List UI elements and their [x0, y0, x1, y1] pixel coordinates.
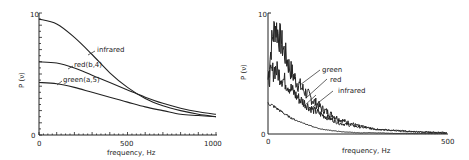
left-x-label-500: 500 [120, 140, 133, 148]
green-noisy-curve [268, 21, 447, 133]
left-chart: 10 0 0 500 1000 frequency, Hz P (ν) infr… [18, 11, 222, 157]
red-label: red(b,4) [74, 61, 102, 69]
right-x-label-0: 0 [266, 138, 270, 146]
infrared-label: infrared [338, 87, 366, 95]
infrared-noisy-curve [268, 102, 447, 133]
right-y-bottom-label: 0 [261, 131, 265, 139]
left-y-bottom-label: 0 [31, 132, 35, 140]
right-x-axis-title: frequency, Hz [342, 147, 391, 155]
infrared-label: infrared [97, 46, 125, 54]
left-x-label-1000: 1000 [204, 140, 222, 148]
left-y-ticks [39, 13, 42, 135]
right-y-top-label: 10 [258, 11, 267, 19]
red-label: red [330, 76, 341, 84]
left-x-ticks [39, 132, 216, 135]
right-y-axis-title: P (ν) [240, 64, 248, 80]
left-x-label-0: 0 [37, 140, 41, 148]
left-y-top-label: 10 [30, 11, 39, 19]
red-pointer [306, 79, 327, 98]
right-chart: 10 0 0 500 frequency, Hz P (ν) green red… [240, 11, 454, 155]
figure: 10 0 0 500 1000 frequency, Hz P (ν) infr… [0, 0, 469, 160]
green-label: green(a,5) [63, 76, 100, 84]
right-x-label-500: 500 [441, 138, 454, 146]
red-noisy-curve [268, 62, 447, 134]
green-pointer [300, 70, 320, 85]
left-y-axis-title: P (ν) [18, 72, 26, 88]
green-label: green [322, 66, 342, 74]
left-x-axis-title: frequency, Hz [107, 149, 156, 157]
